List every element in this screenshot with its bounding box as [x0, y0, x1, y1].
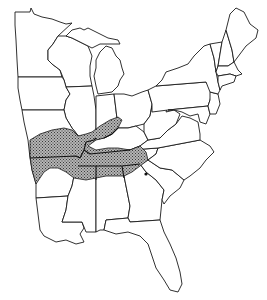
- state-new-jersey: [208, 92, 220, 114]
- state-florida: [104, 218, 182, 292]
- state-michigan-lower: [94, 46, 124, 94]
- state-iowa: [18, 77, 70, 110]
- range-map: [0, 0, 267, 300]
- occurrence-marker: [144, 172, 147, 175]
- map-canvas: [0, 0, 267, 300]
- state-connecticut: [218, 74, 236, 90]
